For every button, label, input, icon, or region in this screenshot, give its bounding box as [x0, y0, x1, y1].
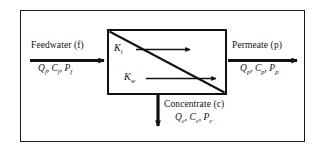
- feed-flow-symbol: Q: [38, 63, 45, 73]
- water-coefficient-symbol: K: [124, 71, 131, 82]
- solute-coefficient-label: Ki: [114, 43, 123, 55]
- concentrate-press-subscript: c: [209, 117, 212, 124]
- feed-press-subscript: f: [70, 68, 72, 75]
- permeate-label: Permeate (p): [232, 41, 282, 51]
- permeate-press-subscript: p: [275, 68, 278, 75]
- solute-coefficient-subscript: i: [121, 48, 123, 55]
- water-coefficient-subscript: w: [131, 77, 136, 84]
- flow-arrows-overlay: [0, 0, 325, 153]
- concentrate-label: Concentrate (c): [164, 100, 224, 110]
- concentrate-flow-symbol: Q: [175, 112, 182, 122]
- water-coefficient-label: Kw: [124, 72, 135, 84]
- permeate-flow-symbol: Q: [240, 63, 247, 73]
- concentrate-variables: Qc, Cc, Pc: [175, 113, 212, 125]
- feedwater-label: Feedwater (f): [31, 41, 84, 51]
- solute-coefficient-symbol: K: [114, 42, 121, 53]
- permeate-variables: Qp, Cp, Pp: [240, 64, 278, 76]
- diagram-canvas: Feedwater (f) Qf, Cf, Pf Permeate (p) Qp…: [0, 0, 325, 153]
- feedwater-variables: Qf, Cf, Pf: [38, 64, 72, 76]
